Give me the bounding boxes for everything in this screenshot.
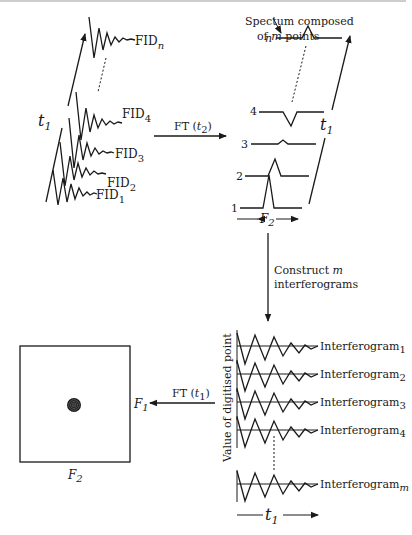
spectrum-n-label: n (265, 32, 272, 45)
construct-label-line1: Construct m (274, 264, 343, 277)
fid-n-label: FIDn (135, 34, 164, 51)
fid-n-trace (89, 17, 135, 58)
fid-3-label: FID3 (115, 147, 144, 164)
interferogram-stack: Value of digitised point Interferogram1 … (221, 330, 409, 527)
spectrum-1-trace (240, 175, 302, 208)
spectra-t1-axis-arrow (332, 36, 350, 110)
spectra-ellipsis (292, 46, 306, 102)
spectrum-2d-f2-label: F2 (67, 468, 83, 484)
interferogram-m-label: Interferogramm (320, 478, 409, 493)
fid-t1-label: t1 (38, 111, 51, 133)
ft-t1-transform: FT (t1) (150, 387, 215, 403)
ft-t2-label: FT (t2) (174, 120, 212, 135)
fid-ellipsis (98, 58, 106, 92)
interferogram-3-trace (237, 389, 318, 419)
ft-t2-transform: FT (t2) (154, 120, 226, 136)
interferogram-y-label: Value of digitised point (221, 333, 234, 463)
spectra-t1-axis-lower (309, 138, 325, 204)
spectrum-4-trace (259, 112, 324, 126)
ft-t1-label: FT (t1) (172, 387, 210, 402)
spectrum-2d-f1-label: F1 (133, 397, 149, 413)
fid-2-trace (60, 142, 106, 186)
fid-stack: t1 FID1 FID2 FID3 FID4 FIDn (38, 17, 164, 205)
interferogram-4-label: Interferogram4 (320, 424, 406, 439)
interferogram-t1-label: t1 (265, 505, 278, 527)
interferogram-1-trace (237, 333, 318, 364)
spectrum-1-label: 1 (231, 202, 238, 215)
spectrum-4-label: 4 (250, 105, 257, 118)
interferogram-4-trace (237, 417, 318, 447)
contour-peak-icon (67, 398, 81, 412)
fid-4-trace (76, 92, 122, 140)
spectra-stack: Spectum composed of m points n 4 3 2 1 t… (231, 15, 354, 228)
spectra-f2-label: F2 (259, 212, 275, 228)
interferogram-3-label: Interferogram3 (320, 396, 406, 411)
interferogram-2-label: Interferogram2 (320, 368, 406, 383)
t1-axis-lower (46, 128, 62, 202)
spectrum-3-trace (251, 140, 316, 144)
interferogram-1-label: Interferogram1 (320, 340, 406, 355)
spectra-t1-label: t1 (320, 115, 333, 137)
construct-label-line2: interferograms (274, 278, 359, 291)
interferogram-2-trace (237, 361, 318, 391)
construct-step: Construct m interferograms (268, 233, 359, 321)
spectrum-annotation-line1: Spectum composed (245, 15, 354, 28)
interferogram-m-trace (237, 471, 318, 501)
fid-1-label: FID1 (96, 188, 125, 205)
2d-nmr-diagram: t1 FID1 FID2 FID3 FID4 FIDn FT (t2) Spec… (0, 0, 412, 535)
spectrum-2d: F1 F2 (20, 346, 149, 484)
spectrum-2-label: 2 (236, 170, 243, 183)
fid-4-label: FID4 (122, 107, 151, 124)
spectrum-2-trace (245, 159, 309, 176)
spectrum-3-label: 3 (241, 138, 248, 151)
